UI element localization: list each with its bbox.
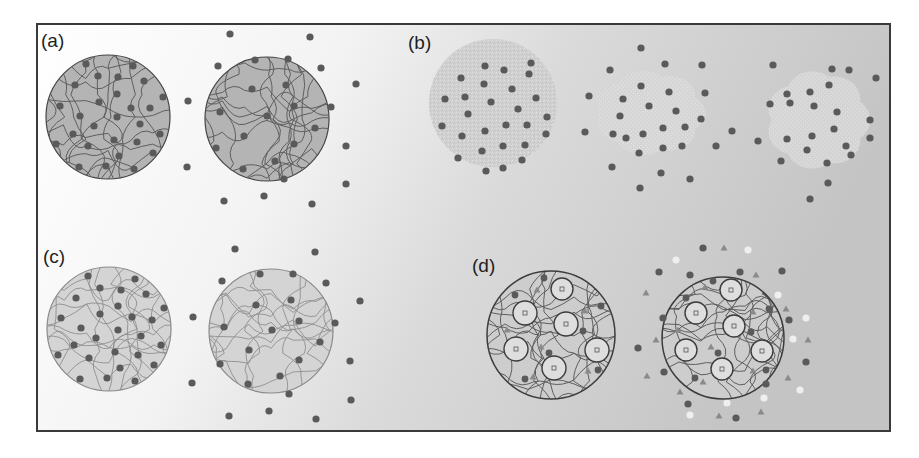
- drug-dot: [95, 98, 102, 105]
- light-particle: [686, 411, 693, 418]
- drug-dot: [480, 80, 487, 87]
- drug-dot: [69, 130, 76, 137]
- vesicle: [675, 339, 697, 361]
- drug-dot: [748, 329, 755, 336]
- vesicle: [513, 301, 537, 325]
- released-dot: [287, 296, 294, 303]
- drug-dot: [461, 93, 468, 100]
- drug-dot: [311, 124, 318, 131]
- drug-dot: [115, 152, 122, 159]
- released-dot: [276, 372, 283, 379]
- drug-dot: [240, 132, 247, 139]
- released-dot: [728, 127, 735, 134]
- drug-dot: [52, 140, 59, 147]
- drug-dot: [75, 163, 82, 170]
- released-dot: [331, 319, 338, 326]
- released-dot: [189, 313, 196, 320]
- released-dot: [312, 415, 319, 422]
- released-dot: [608, 163, 615, 170]
- released-dot: [285, 390, 292, 397]
- drug-dot: [546, 350, 553, 357]
- drug-dot: [595, 367, 602, 374]
- light-particle: [802, 314, 809, 321]
- released-dot: [828, 65, 835, 72]
- panel-label-d: (d): [472, 255, 495, 276]
- released-dot: [342, 180, 349, 187]
- drug-dot: [525, 70, 532, 77]
- drug-dot: [76, 375, 83, 382]
- drug-dot: [454, 154, 461, 161]
- drug-dot: [523, 121, 530, 128]
- vesicle: [585, 338, 609, 362]
- released-dot: [636, 184, 643, 191]
- released-dot: [252, 301, 259, 308]
- released-dot: [697, 115, 704, 122]
- released-dot: [527, 59, 534, 66]
- released-dot: [619, 95, 626, 102]
- released-dot: [231, 245, 238, 252]
- drug-dot: [76, 112, 83, 119]
- released-dot: [866, 116, 873, 123]
- panel-label-a: (a): [41, 30, 64, 51]
- released-dot: [637, 44, 644, 51]
- released-dot: [661, 60, 668, 67]
- drug-dot: [160, 304, 167, 311]
- released-dot: [701, 89, 708, 96]
- light-particle: [760, 394, 767, 401]
- released-dot: [645, 102, 652, 109]
- drug-dot: [478, 147, 485, 154]
- vesicle: [542, 356, 566, 380]
- drug-dot: [251, 56, 258, 63]
- drug-dot: [94, 72, 101, 79]
- drug-dot: [114, 302, 121, 309]
- released-dot: [347, 396, 354, 403]
- released-dot: [823, 159, 830, 166]
- drug-dot: [500, 66, 507, 73]
- released-dot: [699, 244, 706, 251]
- released-dot: [268, 326, 275, 333]
- released-dot: [660, 368, 667, 375]
- released-dot: [214, 62, 221, 69]
- released-dot: [606, 66, 613, 73]
- drug-dot: [82, 60, 89, 67]
- panel-label-c: (c): [43, 246, 65, 267]
- drug-dot: [140, 77, 147, 84]
- released-dot: [824, 179, 831, 186]
- drug-dot: [512, 292, 519, 299]
- drug-dot: [103, 374, 110, 381]
- released-dot: [659, 314, 666, 321]
- released-dot: [732, 414, 739, 421]
- released-dot: [256, 270, 263, 277]
- drug-dot: [159, 93, 166, 100]
- drug-dot: [114, 73, 121, 80]
- drug-dot: [290, 102, 297, 109]
- drug-dot: [522, 376, 529, 383]
- released-dot: [825, 81, 832, 88]
- drug-dot: [130, 165, 137, 172]
- drug-dot: [149, 149, 156, 156]
- released-dot: [245, 346, 252, 353]
- drug-dot: [487, 98, 494, 105]
- drug-dot: [263, 112, 270, 119]
- drug-dot: [457, 74, 464, 81]
- drug-dot: [481, 62, 488, 69]
- drug-dot: [580, 328, 587, 335]
- panel-label-b: (b): [408, 32, 431, 53]
- drug-dot: [127, 104, 134, 111]
- released-dot: [260, 192, 267, 199]
- released-dot: [684, 400, 691, 407]
- released-dot: [635, 149, 642, 156]
- drug-dot: [683, 295, 690, 302]
- drug-dot: [85, 354, 92, 361]
- released-dot: [808, 132, 815, 139]
- drug-dot: [148, 316, 155, 323]
- released-dot: [184, 97, 191, 104]
- released-dot: [802, 358, 809, 365]
- released-dot: [672, 107, 679, 114]
- vesicle: [551, 278, 573, 300]
- drug-dot: [110, 136, 117, 143]
- light-particle: [744, 246, 751, 253]
- drug-dot: [216, 108, 223, 115]
- released-dot: [777, 157, 784, 164]
- light-particle: [796, 386, 803, 393]
